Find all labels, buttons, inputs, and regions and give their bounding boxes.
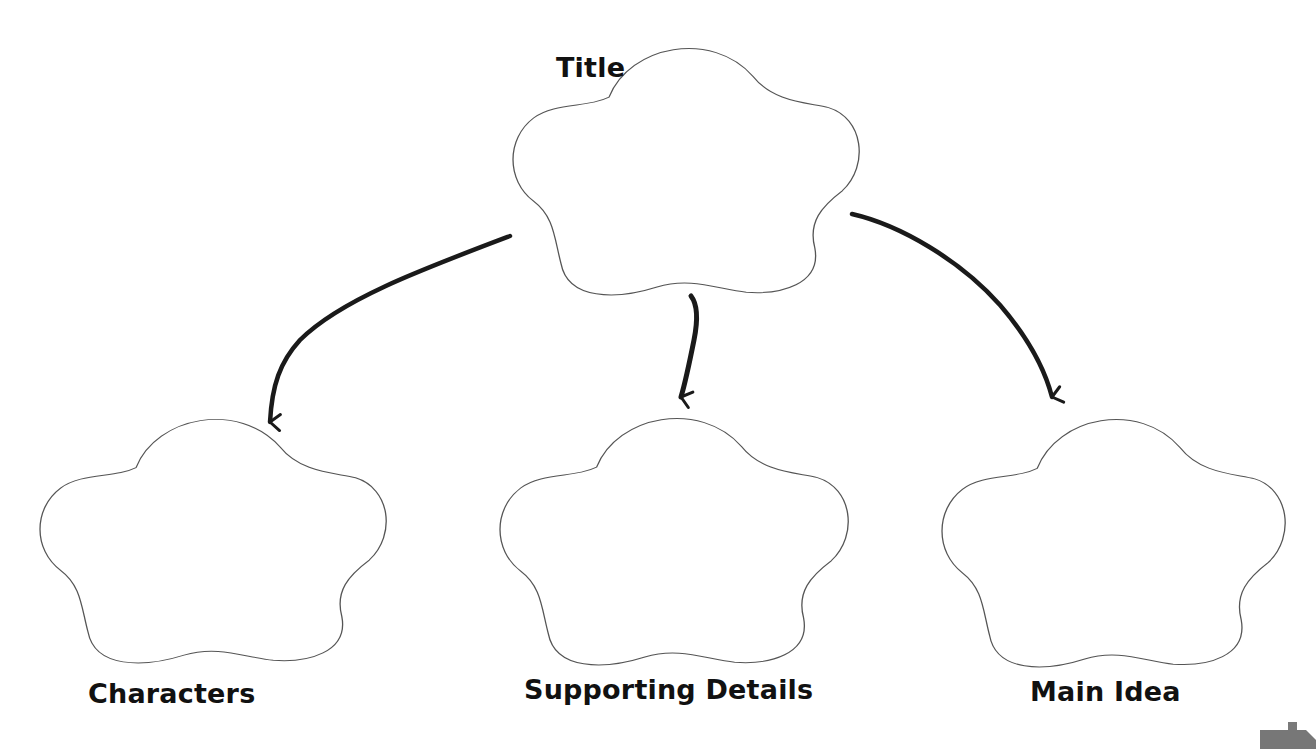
cloud-main-idea (942, 420, 1285, 667)
cloud-supporting-details (500, 419, 848, 665)
node-label-characters: Characters (88, 678, 255, 709)
arrow-title-to-main-idea (852, 214, 1052, 397)
node-label-supporting-details: Supporting Details (524, 674, 813, 705)
arrow-title-to-characters (270, 236, 510, 422)
arrow-title-to-supporting-details (681, 296, 697, 397)
cloud-title (513, 49, 859, 295)
node-label-title: Title (556, 52, 625, 83)
cloud-characters (40, 419, 386, 663)
corner-tab-shape (1260, 722, 1316, 749)
node-label-main-idea: Main Idea (1030, 676, 1181, 707)
diagram-canvas (0, 0, 1316, 749)
